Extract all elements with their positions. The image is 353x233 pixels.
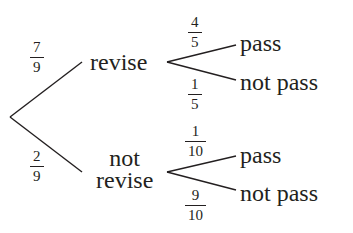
fraction-bar: [185, 205, 206, 206]
fraction-bar: [30, 166, 44, 167]
leaf-notrevise-pass: pass: [240, 143, 281, 167]
branch-root-revise: [10, 62, 82, 117]
prob-notrevise-pass-den: 10: [185, 144, 206, 159]
branch-root-not-revise: [10, 117, 82, 172]
fraction-bar: [30, 57, 44, 58]
fraction-bar: [185, 141, 206, 142]
prob-notrevise-not-pass: 9 10: [185, 188, 206, 223]
prob-not-revise-num: 2: [30, 149, 44, 164]
leaf-revise-not-pass: not pass: [240, 70, 318, 94]
prob-notrevise-pass: 1 10: [185, 124, 206, 159]
fraction-bar: [188, 94, 202, 95]
prob-revise-not-pass-num: 1: [188, 77, 202, 92]
node-not-revise-line1: not: [96, 147, 153, 169]
prob-revise-num: 7: [30, 40, 44, 55]
branch-revise-pass: [167, 45, 236, 62]
prob-revise-pass: 4 5: [188, 15, 202, 50]
prob-not-revise: 2 9: [30, 149, 44, 184]
node-not-revise-line2: revise: [96, 169, 153, 191]
prob-notrevise-not-pass-den: 10: [185, 208, 206, 223]
fraction-bar: [188, 32, 202, 33]
prob-revise-not-pass: 1 5: [188, 77, 202, 112]
prob-revise-not-pass-den: 5: [188, 97, 202, 112]
prob-revise: 7 9: [30, 40, 44, 75]
node-not-revise: not revise: [96, 147, 153, 191]
prob-revise-pass-num: 4: [188, 15, 202, 30]
prob-revise-pass-den: 5: [188, 35, 202, 50]
leaf-revise-pass: pass: [240, 31, 281, 55]
prob-notrevise-not-pass-num: 9: [189, 188, 203, 203]
leaf-notrevise-not-pass: not pass: [240, 181, 318, 205]
prob-not-revise-den: 9: [30, 169, 44, 184]
prob-notrevise-pass-num: 1: [189, 124, 203, 139]
branch-revise-not-pass: [167, 62, 236, 80]
prob-revise-den: 9: [30, 60, 44, 75]
node-revise: revise: [90, 50, 147, 74]
